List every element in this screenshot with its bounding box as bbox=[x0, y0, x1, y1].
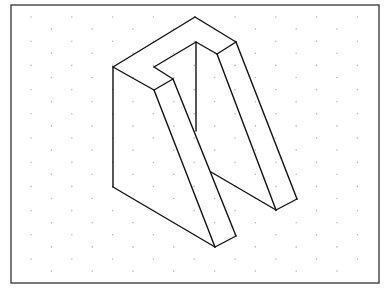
grid-dot bbox=[316, 137, 318, 139]
grid-dot bbox=[193, 161, 195, 163]
grid-dot bbox=[193, 89, 195, 91]
grid-dot bbox=[91, 125, 93, 127]
grid-dot bbox=[51, 198, 53, 200]
grid-dot bbox=[153, 16, 155, 18]
grid-dot bbox=[112, 210, 114, 212]
grid-dot bbox=[255, 28, 257, 30]
grid-dot bbox=[173, 125, 175, 127]
grid-dot bbox=[30, 40, 32, 42]
grid-dot bbox=[51, 101, 53, 103]
grid-dot bbox=[30, 16, 32, 18]
edge-B_left-C_front_top bbox=[113, 67, 154, 90]
grid-dot bbox=[295, 77, 297, 79]
grid-dot bbox=[30, 186, 32, 188]
grid-dot bbox=[153, 113, 155, 115]
grid-dot bbox=[234, 65, 236, 67]
block-outline bbox=[113, 17, 297, 247]
grid-dot bbox=[357, 16, 359, 18]
grid-dot bbox=[295, 174, 297, 176]
grid-dot bbox=[275, 234, 277, 236]
grid-dot bbox=[316, 65, 318, 67]
grid-dot bbox=[91, 101, 93, 103]
grid-dot bbox=[112, 234, 114, 236]
grid-dot bbox=[51, 222, 53, 224]
edge-H_right_top-O_right_leg_right bbox=[236, 42, 297, 199]
edge-C_front_top-J_bottom bbox=[154, 90, 215, 247]
grid-dot bbox=[71, 16, 73, 18]
grid-dot bbox=[275, 161, 277, 163]
grid-dot bbox=[234, 137, 236, 139]
grid-dot bbox=[91, 246, 93, 248]
grid-dot bbox=[357, 210, 359, 212]
edge-F_notch_back-G_notch_right bbox=[196, 42, 217, 54]
grid-dot bbox=[295, 270, 297, 272]
grid-dot bbox=[132, 222, 134, 224]
edge-C_front_top-D_notch_front bbox=[154, 79, 173, 90]
grid-dot bbox=[173, 270, 175, 272]
grid-dot bbox=[193, 113, 195, 115]
grid-dot bbox=[173, 77, 175, 79]
grid-dot bbox=[173, 246, 175, 248]
drawing-frame bbox=[11, 5, 379, 283]
grid-dot bbox=[173, 53, 175, 55]
grid-dot bbox=[295, 125, 297, 127]
grid-dot bbox=[71, 161, 73, 163]
grid-dot bbox=[295, 53, 297, 55]
grid-dot bbox=[336, 222, 338, 224]
grid-dot bbox=[112, 40, 114, 42]
grid-dot bbox=[357, 113, 359, 115]
grid-dot bbox=[112, 258, 114, 260]
grid-dot bbox=[357, 186, 359, 188]
grid-dot bbox=[255, 77, 257, 79]
grid-dot bbox=[316, 113, 318, 115]
grid-dot bbox=[316, 210, 318, 212]
grid-dot bbox=[51, 270, 53, 272]
grid-dot bbox=[336, 149, 338, 151]
grid-dot bbox=[193, 210, 195, 212]
grid-dot bbox=[316, 89, 318, 91]
grid-dot bbox=[71, 137, 73, 139]
grid-dot bbox=[30, 65, 32, 67]
grid-dot bbox=[132, 174, 134, 176]
grid-dot bbox=[357, 234, 359, 236]
grid-dot bbox=[153, 258, 155, 260]
grid-dot bbox=[91, 222, 93, 224]
grid-dot bbox=[336, 101, 338, 103]
grid-dot bbox=[275, 137, 277, 139]
grid-dot bbox=[51, 174, 53, 176]
grid-dot bbox=[275, 65, 277, 67]
grid-dot bbox=[357, 40, 359, 42]
grid-dot bbox=[71, 113, 73, 115]
grid-dot bbox=[336, 77, 338, 79]
grid-dot bbox=[234, 210, 236, 212]
grid-dot bbox=[295, 28, 297, 30]
grid-dot bbox=[193, 258, 195, 260]
grid-dot bbox=[234, 258, 236, 260]
grid-dot bbox=[255, 270, 257, 272]
grid-dot bbox=[91, 28, 93, 30]
grid-dot bbox=[357, 258, 359, 260]
edge-J_bottom-K_left_leg_right bbox=[215, 236, 236, 247]
edge-N_right_leg_bottom-O_right_leg_right bbox=[276, 199, 297, 210]
grid-dot bbox=[295, 222, 297, 224]
grid-dot bbox=[91, 174, 93, 176]
grid-dot bbox=[153, 186, 155, 188]
grid-dot bbox=[132, 149, 134, 151]
grid-dot bbox=[132, 101, 134, 103]
grid-dot bbox=[336, 174, 338, 176]
grid-dot bbox=[336, 125, 338, 127]
grid-dot bbox=[51, 149, 53, 151]
isometric-drawing-canvas bbox=[0, 0, 385, 290]
grid-dot bbox=[173, 198, 175, 200]
grid-dot bbox=[295, 149, 297, 151]
grid-dot bbox=[51, 77, 53, 79]
grid-dot bbox=[275, 16, 277, 18]
edge-G_notch_right-N_right_leg_bottom bbox=[217, 54, 276, 210]
grid-dot bbox=[193, 137, 195, 139]
grid-dot bbox=[357, 89, 359, 91]
grid-dot bbox=[132, 125, 134, 127]
edge-E_notch_left-F_notch_back bbox=[154, 42, 196, 67]
grid-dot bbox=[71, 210, 73, 212]
grid-dot bbox=[316, 161, 318, 163]
grid-dot bbox=[234, 161, 236, 163]
